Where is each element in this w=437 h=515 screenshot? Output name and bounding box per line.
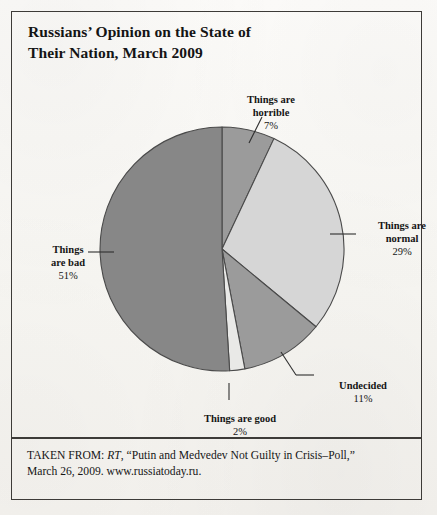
figure-root: Russians’ Opinion on the State of Their … (0, 0, 437, 515)
slice-label-undecided-line1: Undecided (324, 379, 402, 392)
source-citation: TAKEN FROM: RT, “Putin and Medvedev Not … (27, 448, 412, 481)
slice-label-horrible-line2: horrible (216, 106, 326, 119)
slice-label-horrible: Things are horrible 7% (216, 93, 326, 133)
slice-value-bad: 51% (37, 269, 99, 282)
source-publication: RT (107, 449, 121, 462)
slice-value-horrible: 7% (216, 119, 326, 132)
slice-label-good-line1: Things are good (183, 412, 297, 425)
slice-label-bad-line2: are bad (37, 256, 99, 269)
slice-label-normal-line1: Things are (363, 219, 437, 232)
slice-label-good: Things are good 2% (183, 412, 297, 438)
pie-slices (100, 127, 344, 371)
slice-label-undecided: Undecided 11% (324, 379, 402, 405)
slice-value-normal: 29% (363, 245, 437, 258)
pie-slice-things-are-bad (100, 127, 230, 371)
slice-label-normal: Things are normal 29% (363, 219, 437, 259)
source-title: , “Putin and Medvedev Not Guilty in Cris… (121, 449, 355, 462)
source-prefix: TAKEN FROM: (27, 449, 107, 462)
source-divider (11, 437, 422, 439)
slice-label-horrible-line1: Things are (216, 93, 326, 106)
slice-label-bad: Things are bad 51% (37, 243, 99, 283)
slice-value-undecided: 11% (324, 392, 402, 405)
pie-chart: Things are horrible 7% Things are normal… (11, 11, 422, 500)
slice-label-normal-line2: normal (363, 232, 437, 245)
leader-line-undecided (281, 352, 296, 375)
slice-label-bad-line1: Things (37, 243, 99, 256)
source-date-url: March 26, 2009. www.russiatoday.ru. (27, 465, 201, 478)
